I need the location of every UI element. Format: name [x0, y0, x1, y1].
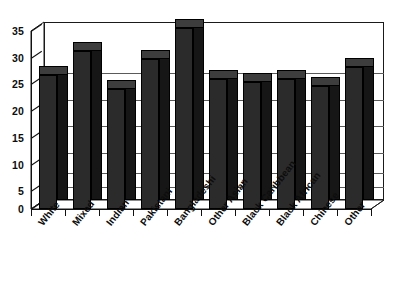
- bar-top: [209, 70, 238, 79]
- y-tick-label-10: 10: [0, 159, 24, 171]
- y-tick-label-20: 20: [0, 105, 24, 117]
- y-tick-label-35: 35: [0, 25, 24, 37]
- x-tick-6: [235, 209, 236, 216]
- x-tick-3: [133, 209, 134, 216]
- bar-front: [39, 75, 57, 209]
- y-tick-label-30: 30: [0, 52, 24, 64]
- x-tick-2: [99, 209, 100, 216]
- x-tick-9: [337, 209, 338, 216]
- bar-front: [175, 28, 193, 209]
- bar-front: [73, 51, 91, 209]
- y-tick-label-5: 5: [0, 185, 24, 197]
- bar-other-asian: [209, 79, 227, 209]
- bar-top: [311, 77, 340, 86]
- bar-front: [243, 82, 261, 209]
- bar-front: [277, 79, 295, 209]
- x-tick-8: [303, 209, 304, 216]
- bar-side: [193, 19, 204, 200]
- x-tick-10: [371, 209, 372, 216]
- x-tick-0: [31, 209, 32, 216]
- bar-front: [107, 89, 125, 209]
- bar-top: [277, 70, 306, 79]
- bar-side: [159, 50, 170, 200]
- bar-top: [243, 73, 272, 82]
- y-tick-label-15: 15: [0, 132, 24, 144]
- bar-pakistani: [141, 59, 159, 209]
- y-tick-35: [31, 24, 42, 32]
- y-tick-30: [31, 51, 42, 59]
- bar-top: [39, 66, 68, 75]
- bar-front: [209, 79, 227, 209]
- bar-top: [141, 50, 170, 59]
- bar-chinese: [311, 86, 329, 209]
- bar-black-caribbean: [243, 82, 261, 209]
- bar-top: [73, 42, 102, 51]
- bar-front: [141, 59, 159, 209]
- y-tick-label-25: 25: [0, 78, 24, 90]
- bar-mixed: [73, 51, 91, 209]
- y-tick-label-0: 0: [0, 203, 24, 215]
- bar-indian: [107, 89, 125, 209]
- x-tick-4: [167, 209, 168, 216]
- bar-front: [345, 67, 363, 209]
- bar-top: [345, 58, 374, 67]
- bar-white: [39, 75, 57, 209]
- bar-side: [57, 66, 68, 200]
- bar-black-african: [277, 79, 295, 209]
- bar-side: [363, 58, 374, 200]
- x-tick-1: [65, 209, 66, 216]
- bar-side: [329, 77, 340, 200]
- bar-side: [91, 42, 102, 200]
- bar-other: [345, 67, 363, 209]
- bar-front: [311, 86, 329, 209]
- bar-chart: 35 30 25 20 15 10 5 0: [0, 0, 394, 284]
- x-tick-7: [269, 209, 270, 216]
- bar-top: [175, 19, 204, 28]
- bar-side: [125, 80, 136, 200]
- x-tick-5: [201, 209, 202, 216]
- bar-top: [107, 80, 136, 89]
- bar-bangladeshi: [175, 28, 193, 209]
